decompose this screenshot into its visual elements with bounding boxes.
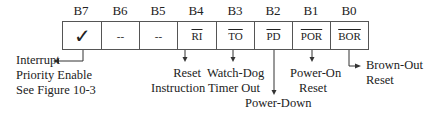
b1-description: Power-On Reset [290, 66, 336, 96]
arrow-down-icon [231, 57, 236, 62]
b3-description: Watch-Dog Timer Out [207, 66, 261, 96]
b4-description: Reset Instruction [151, 66, 201, 96]
arrow-down-icon [272, 90, 277, 95]
b0-connector-line [349, 50, 356, 66]
b0-description: Brown-Out Reset [366, 58, 423, 88]
arrow-down-icon [183, 57, 188, 62]
arrow-down-icon [310, 57, 315, 62]
arrow-right-icon [355, 64, 361, 69]
b2-description: Power-Down [245, 96, 311, 111]
b7-description: Interrupt Priority Enable See Figure 10-… [16, 53, 96, 98]
